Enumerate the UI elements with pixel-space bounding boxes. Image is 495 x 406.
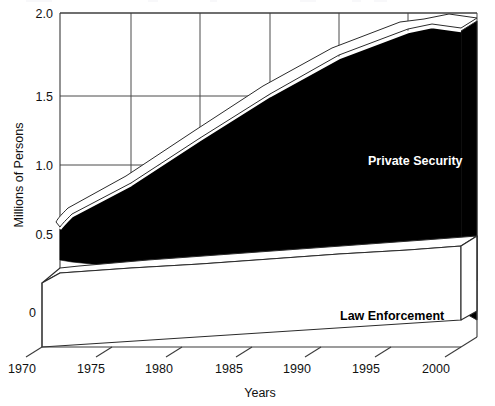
x-tick-label-1975: 1975 [77, 362, 105, 376]
law-enforcement-depth-face [461, 236, 477, 320]
y-axis-title: Millions of Persons [12, 123, 26, 228]
y-tick-label-2-0: 2.0 [36, 7, 53, 21]
series-label-private-security: Private Security [368, 154, 463, 168]
x-tick-label-1990: 1990 [283, 362, 311, 376]
x-tick-label-1970: 1970 [8, 362, 36, 376]
chart-svg: 2.0 1.5 1.0 0.5 0 1970 1975 1980 1985 19… [0, 0, 495, 406]
y-tick-label-0: 0 [29, 306, 36, 320]
chart-area-3d-stacked: 2.0 1.5 1.0 0.5 0 1970 1975 1980 1985 19… [0, 0, 495, 406]
y-tick-label-0-5: 0.5 [36, 228, 53, 242]
x-axis-title: Years [244, 386, 276, 400]
series-label-law-enforcement: Law Enforcement [340, 309, 445, 323]
x-tick-label-1980: 1980 [145, 362, 173, 376]
x-tick-label-1985: 1985 [215, 362, 243, 376]
y-tick-label-1-5: 1.5 [36, 90, 53, 104]
x-tick-label-2000: 2000 [422, 362, 450, 376]
y-tick-label-1-0: 1.0 [36, 159, 53, 173]
x-tick-label-1995: 1995 [352, 362, 380, 376]
